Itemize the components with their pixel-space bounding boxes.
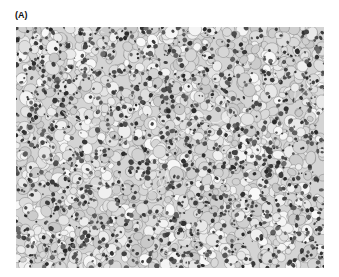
panel-label: (A) <box>15 10 28 20</box>
micrograph-canvas <box>16 27 324 268</box>
histology-micrograph <box>16 27 324 268</box>
